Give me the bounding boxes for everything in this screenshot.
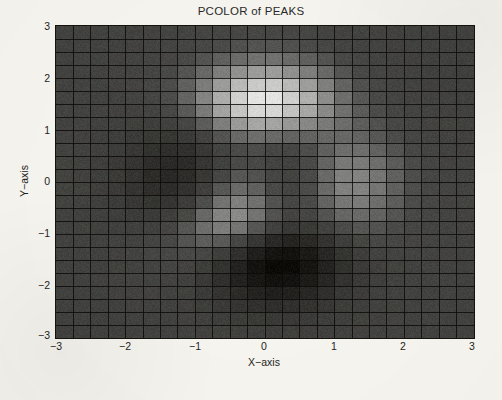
x-tick-label-0: −3 [50, 340, 62, 352]
y-axis-label: Y−axis [18, 165, 30, 197]
x-tick-label-4: 1 [331, 340, 337, 352]
chart-title: PCOLOR of PEAKS [0, 5, 502, 17]
x-tick-label-6: 3 [469, 340, 475, 352]
x-tick-label-3: 0 [261, 340, 267, 352]
y-tick-label-2: 1 [44, 124, 50, 136]
x-tick-label-5: 2 [400, 340, 406, 352]
y-tick-label-0: 3 [44, 20, 50, 32]
y-tick-label-6: −3 [38, 329, 50, 341]
y-tick-label-3: 0 [44, 175, 50, 187]
y-tick-label-5: −2 [38, 279, 50, 291]
x-tick-label-2: −1 [189, 340, 201, 352]
x-tick-label-1: −2 [119, 340, 131, 352]
y-tick-label-1: 2 [44, 72, 50, 84]
x-axis-label: X−axis [55, 356, 473, 368]
plot-area [55, 25, 475, 339]
y-tick-label-4: −1 [38, 227, 50, 239]
pcolor-figure: PCOLOR of PEAKS −3 −2 −1 0 1 2 3 3 2 1 0… [0, 0, 502, 400]
pcolor-heatmap [56, 26, 474, 338]
